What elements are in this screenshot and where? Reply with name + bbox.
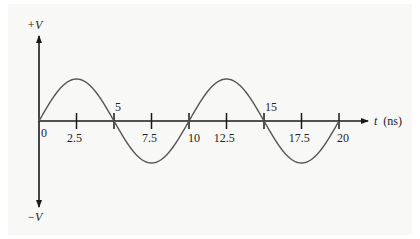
- y-label-top: +V: [27, 18, 44, 32]
- x-tick-label: 17.5: [289, 131, 310, 145]
- x-tick-label: 5: [115, 100, 121, 114]
- sine-wave-chart: 02.557.51012.51517.520 +V −V t (ns): [0, 0, 420, 239]
- x-tick-label: 15: [265, 100, 277, 114]
- x-axis-label: t (ns): [374, 114, 402, 128]
- x-tick-label: 20: [337, 131, 349, 145]
- x-tick-label: 10: [188, 131, 200, 145]
- x-tick-label: 2.5: [67, 131, 82, 145]
- x-axis-unit: (ns): [383, 114, 402, 128]
- y-label-bottom: −V: [27, 210, 44, 224]
- axes: [39, 36, 368, 207]
- x-tick-label: 7.5: [142, 131, 157, 145]
- x-axis-var: t: [374, 114, 378, 128]
- x-tick-labels: 02.557.51012.51517.520: [41, 100, 349, 145]
- x-tick-label: 12.5: [214, 131, 235, 145]
- x-tick-label: 0: [41, 126, 47, 140]
